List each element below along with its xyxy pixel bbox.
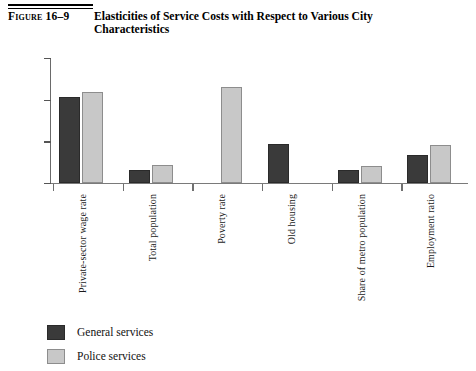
bar-general [338, 170, 359, 183]
figure-rule-top [8, 4, 93, 6]
bar-general [59, 97, 80, 183]
legend-item: General services [47, 322, 153, 342]
bar-general [268, 144, 289, 183]
bar-police [430, 145, 451, 183]
bar-general [129, 170, 150, 183]
category-tick [53, 184, 54, 191]
y-tick-mark [44, 141, 51, 142]
chart-legend: General servicesPolice services [47, 322, 153, 370]
category-label: Total population [147, 194, 158, 261]
category-tick [401, 184, 402, 191]
category-label: Employment ratio [425, 194, 436, 268]
bar-police [152, 165, 173, 183]
figure-header: Figure 16–9 Elasticities of Service Cost… [8, 4, 468, 37]
category-tick [332, 184, 333, 191]
category-tick [262, 184, 263, 191]
legend-swatch-police [47, 349, 65, 364]
y-tick-mark [44, 58, 51, 59]
figure-rule-bottom [8, 8, 93, 9]
bar-general [407, 155, 428, 183]
bar-police [221, 87, 242, 183]
legend-item: Police services [47, 346, 153, 366]
category-tick [123, 184, 124, 191]
x-axis-line [50, 183, 468, 184]
bar-police [361, 166, 382, 184]
figure-caption: Figure 16–9 Elasticities of Service Cost… [8, 10, 468, 37]
category-label: Poverty rate [216, 194, 227, 244]
category-label: Share of metro population [356, 194, 367, 301]
figure-title: Elasticities of Service Costs with Respe… [94, 10, 424, 37]
legend-label: Police services [77, 350, 146, 362]
bars-layer [51, 58, 469, 183]
category-label: Private-sector wage rate [77, 194, 88, 293]
category-tick [192, 184, 193, 191]
bar-police [82, 92, 103, 183]
y-tick-mark [44, 100, 51, 101]
figure-number: Figure 16–9 [8, 10, 94, 22]
category-label: Old housing [286, 194, 297, 244]
bar-chart: 0.000.501.001.50 Private-sector wage rat… [0, 52, 476, 371]
legend-label: General services [77, 326, 153, 338]
legend-swatch-general [47, 325, 65, 340]
y-tick-mark [44, 183, 51, 184]
